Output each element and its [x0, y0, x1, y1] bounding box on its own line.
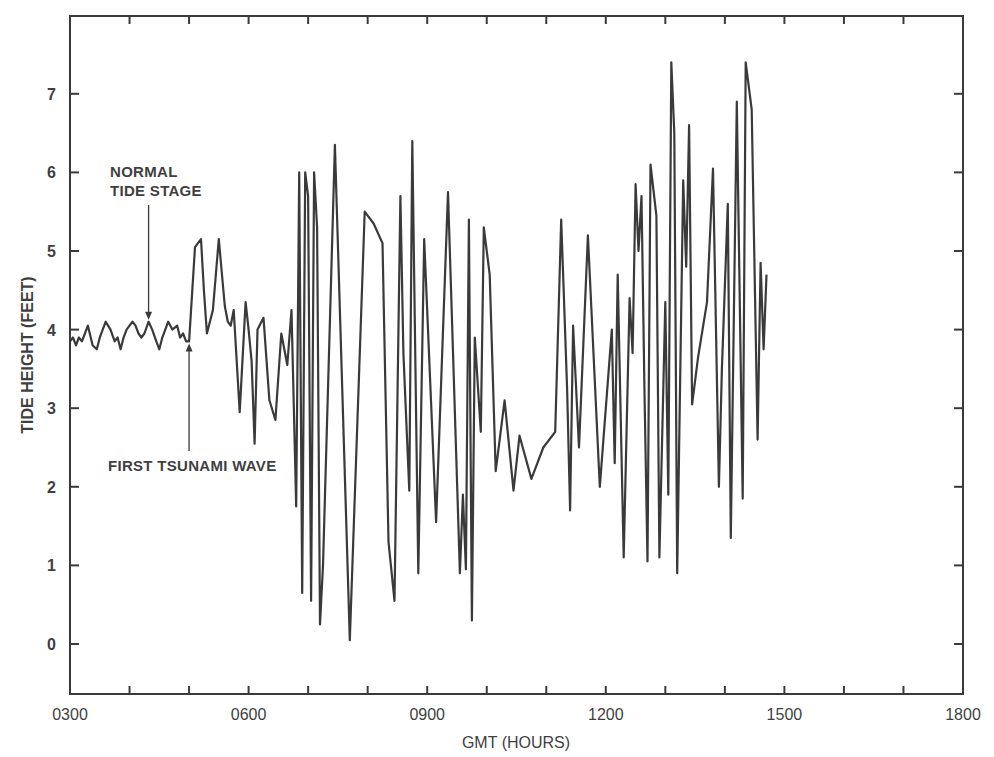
- y-tick-label: 5: [47, 243, 56, 260]
- annotation-normal-tide-stage: TIDE STAGE: [110, 182, 202, 199]
- x-tick-label: 1500: [767, 706, 803, 723]
- x-tick-label: 1800: [945, 706, 981, 723]
- y-axis: 01234567: [47, 86, 963, 653]
- x-tick-label: 0600: [231, 706, 267, 723]
- y-tick-label: 6: [47, 164, 56, 181]
- y-tick-label: 4: [47, 322, 56, 339]
- y-tick-label: 0: [47, 636, 56, 653]
- x-axis: 030006000900120015001800: [52, 16, 981, 723]
- annotations: NORMALTIDE STAGEFIRST TSUNAMI WAVE: [108, 163, 276, 474]
- y-tick-label: 1: [47, 557, 56, 574]
- tide-height-line: [70, 62, 767, 640]
- x-tick-label: 0900: [409, 706, 445, 723]
- y-tick-label: 2: [47, 479, 56, 496]
- arrow-down-icon: [145, 312, 152, 320]
- plot-border: [70, 16, 963, 694]
- annotation-normal-tide-stage: NORMAL: [110, 163, 178, 180]
- y-tick-label: 7: [47, 86, 56, 103]
- y-tick-label: 3: [47, 400, 56, 417]
- plot-frame: [70, 16, 963, 694]
- x-tick-label: 0300: [52, 706, 88, 723]
- tide-chart: 030006000900120015001800 01234567 NORMAL…: [0, 0, 994, 757]
- x-tick-label: 1200: [588, 706, 624, 723]
- x-axis-title: GMT (HOURS): [462, 734, 570, 751]
- y-axis-title: TIDE HEIGHT (FEET): [19, 276, 36, 433]
- arrow-up-icon: [186, 343, 193, 351]
- annotation-first-tsunami-wave: FIRST TSUNAMI WAVE: [108, 457, 276, 474]
